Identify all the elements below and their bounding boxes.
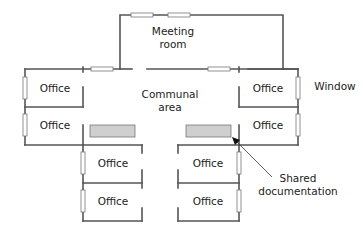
communal-area-label-line1: Communal: [130, 88, 210, 101]
window-meeting-1: [131, 13, 153, 17]
shared-documentation-shelf-left: [90, 125, 135, 137]
shared-documentation-shelf-right: [186, 125, 231, 137]
window-right-upper: [296, 77, 300, 99]
shared-documentation-label-line1: Shared: [258, 172, 338, 185]
window-right-lower: [296, 114, 300, 136]
meeting-room-label-line1: Meeting: [143, 25, 203, 38]
office-right-lower-label: Office: [243, 119, 293, 132]
window-bl-2: [81, 190, 85, 212]
office-bottom-left-1-label: Office: [88, 157, 138, 170]
office-bottom-right-1-label: Office: [183, 157, 233, 170]
window-top-right: [208, 67, 230, 71]
window-top-left: [91, 67, 113, 71]
communal-area-label: Communal area: [130, 88, 210, 114]
shared-documentation-label-line2: documentation: [258, 185, 338, 198]
shared-documentation-label: Shared documentation: [258, 172, 338, 198]
office-right-upper-label: Office: [243, 82, 293, 95]
office-left-lower-label: Office: [30, 119, 80, 132]
window-bl-1: [81, 152, 85, 174]
window-br-2: [237, 190, 241, 212]
window-br-1: [237, 152, 241, 174]
office-left-upper-label: Office: [30, 82, 80, 95]
window-meeting-2: [168, 13, 190, 17]
window-left-upper: [23, 77, 27, 99]
meeting-room-label-line2: room: [143, 38, 203, 51]
office-bottom-right-2-label: Office: [183, 195, 233, 208]
office-bottom-left-2-label: Office: [88, 195, 138, 208]
window-annotation-label: Window: [310, 80, 360, 93]
communal-area-label-line2: area: [130, 101, 210, 114]
window-left-lower: [23, 114, 27, 136]
meeting-room-label: Meeting room: [143, 25, 203, 51]
